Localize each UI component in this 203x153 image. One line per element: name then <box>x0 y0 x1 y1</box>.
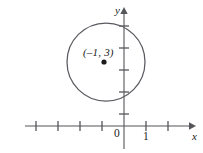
center-point-label: (–1, 3) <box>83 47 114 58</box>
x-unit-label: 1 <box>143 131 149 143</box>
coordinate-figure: (–1, 3) 0 1 x y <box>0 0 203 153</box>
origin-label: 0 <box>114 128 120 140</box>
center-point-dot <box>101 59 106 64</box>
x-axis-arrowhead <box>189 122 196 130</box>
x-axis-label: x <box>192 131 197 142</box>
y-axis-label: y <box>115 5 120 16</box>
figure-canvas <box>0 0 203 153</box>
y-axis-arrowhead <box>120 7 127 14</box>
